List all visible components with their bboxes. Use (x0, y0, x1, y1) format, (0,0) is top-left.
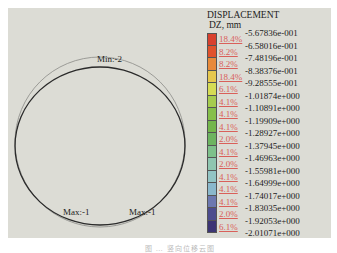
figure-panel: Min:-2 Max:-1 Max:-1 DISPLACEMENT DZ, mm… (8, 8, 331, 238)
color-bar (207, 33, 217, 233)
figure-caption: 图 … 竖向位移云图 (145, 243, 215, 253)
bin-percent: 2.0% (217, 133, 245, 146)
legend-subtitle: DZ, mm (209, 20, 241, 30)
level-value: -6.58016e-001 (245, 40, 300, 53)
color-swatch (207, 58, 217, 71)
color-swatch (207, 83, 217, 96)
bin-percent: 4.1% (217, 196, 245, 209)
bin-percent: 4.1% (217, 171, 245, 184)
bin-percent: 2.0% (217, 158, 245, 171)
legend: DISPLACEMENT DZ, mm 18.4%8.2%8.2%18.4%6.… (201, 8, 331, 238)
level-value: -1.55981e+000 (245, 165, 300, 178)
bin-percent: 4.1% (217, 121, 245, 134)
color-swatch (207, 208, 217, 221)
bin-percent: 4.1% (217, 108, 245, 121)
plot-area: Min:-2 Max:-1 Max:-1 (8, 8, 198, 238)
min-label: Min:-2 (97, 54, 122, 64)
bin-percent: 8.2% (217, 46, 245, 59)
color-swatch (207, 108, 217, 121)
bin-percent: 18.4% (217, 71, 245, 84)
undeformed-outline (15, 57, 185, 227)
level-value: -1.37945e+000 (245, 140, 300, 153)
level-value: -1.92053e+000 (245, 215, 300, 228)
level-value: -8.38376e-001 (245, 65, 300, 78)
ring-deformation-plot (8, 8, 198, 238)
level-value: -9.28555e-001 (245, 77, 300, 90)
legend-title: DISPLACEMENT (207, 10, 279, 20)
level-value: -1.64999e+000 (245, 177, 300, 190)
level-value: -2.01071e+000 (245, 227, 300, 240)
level-value: -1.83035e+000 (245, 202, 300, 215)
color-swatch (207, 133, 217, 146)
level-value: -1.28927e+000 (245, 127, 300, 140)
level-values: -5.67836e-001-6.58016e-001-7.48196e-001-… (245, 27, 300, 240)
level-value: -1.10891e+000 (245, 102, 300, 115)
bin-percent: 4.1% (217, 183, 245, 196)
color-swatch (207, 46, 217, 59)
color-swatch (207, 121, 217, 134)
level-value: -1.19909e+000 (245, 115, 300, 128)
max-label-left: Max:-1 (63, 207, 90, 217)
bin-percent: 8.2% (217, 58, 245, 71)
deformed-outline (15, 67, 185, 225)
color-swatch (207, 33, 217, 46)
bin-percent: 4.1% (217, 96, 245, 109)
color-swatch (207, 96, 217, 109)
percent-list: 18.4%8.2%8.2%18.4%6.1%4.1%4.1%4.1%2.0%4.… (217, 33, 245, 233)
bin-percent: 2.0% (217, 208, 245, 221)
color-swatch (207, 146, 217, 159)
level-value: -5.67836e-001 (245, 27, 300, 40)
bin-percent: 6.1% (217, 221, 245, 234)
color-swatch (207, 171, 217, 184)
level-value: -1.74017e+000 (245, 190, 300, 203)
level-value: -1.46963e+000 (245, 152, 300, 165)
level-value: -1.01874e+000 (245, 90, 300, 103)
max-label-right: Max:-1 (129, 207, 156, 217)
color-swatch (207, 221, 217, 234)
bin-percent: 6.1% (217, 83, 245, 96)
color-swatch (207, 71, 217, 84)
bin-percent: 4.1% (217, 146, 245, 159)
bin-percent: 18.4% (217, 33, 245, 46)
color-swatch (207, 183, 217, 196)
level-value: -7.48196e-001 (245, 52, 300, 65)
color-swatch (207, 158, 217, 171)
color-swatch (207, 196, 217, 209)
